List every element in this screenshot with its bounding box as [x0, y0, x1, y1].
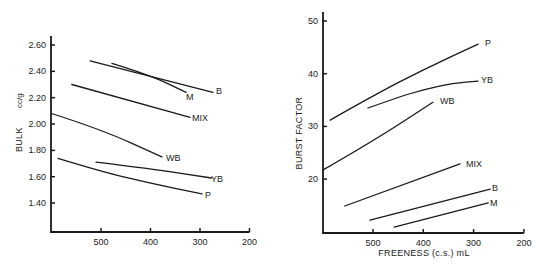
- series-line-b: [370, 189, 490, 220]
- series-line-m: [394, 203, 488, 227]
- series-line-m: [112, 63, 186, 92]
- x-tick-label: 200: [242, 237, 257, 247]
- series-label-mix: MIX: [466, 159, 482, 169]
- y-tick-label: 1.40: [28, 198, 46, 208]
- series-label-mix: MIX: [192, 113, 208, 123]
- y-tick-label: 50: [308, 16, 318, 26]
- x-tick-label: 200: [516, 238, 531, 248]
- burst-factor-vs-freeness-chart: 50040030020050403020PYBWBMIXBMBURST FACT…: [294, 12, 531, 258]
- y-tick-label: 2.40: [28, 66, 46, 76]
- left-y-axis-unit: cc/g: [15, 93, 24, 108]
- y-tick-label: 20: [308, 174, 318, 184]
- y-tick-label: 2.00: [28, 119, 46, 129]
- series-line-wb: [323, 102, 433, 170]
- left-y-axis-title: BULK: [14, 127, 24, 152]
- y-tick-label: 2.20: [28, 93, 46, 103]
- series-label-m: M: [490, 198, 498, 208]
- series-label-yb: YB: [481, 75, 493, 85]
- series-label-m: M: [186, 92, 194, 102]
- x-tick-label: 500: [365, 238, 380, 248]
- series-label-p: P: [485, 38, 491, 48]
- series-label-wb: WB: [166, 153, 181, 163]
- left-axes: [51, 36, 250, 232]
- series-label-p: P: [205, 190, 211, 200]
- x-tick-label: 400: [416, 238, 431, 248]
- series-line-yb: [96, 162, 211, 178]
- right-y-axis-title: BURST FACTOR: [294, 96, 304, 169]
- x-tick-label: 400: [143, 237, 158, 247]
- x-tick-label: 500: [93, 237, 108, 247]
- series-line-p: [58, 158, 202, 194]
- y-tick-label: 2.60: [28, 40, 46, 50]
- freeness-charts: 5004003002002.602.402.202.001.801.601.40…: [0, 0, 545, 268]
- series-label-yb: YB: [211, 174, 223, 184]
- series-line-mix: [345, 164, 460, 206]
- y-tick-label: 40: [308, 69, 318, 79]
- bulk-vs-freeness-chart: 5004003002002.602.402.202.001.801.601.40…: [14, 36, 257, 247]
- right-x-axis-title: FREENESS (c.s.) mL: [378, 248, 469, 258]
- series-label-wb: WB: [440, 96, 455, 106]
- y-tick-label: 30: [308, 121, 318, 131]
- series-label-b: B: [492, 183, 498, 193]
- series-line-p: [330, 44, 478, 120]
- x-tick-label: 300: [466, 238, 481, 248]
- series-line-yb: [368, 81, 478, 108]
- series-label-b: B: [216, 86, 222, 96]
- y-tick-label: 1.60: [28, 172, 46, 182]
- x-tick-label: 300: [192, 237, 207, 247]
- series-line-mix: [72, 85, 190, 118]
- y-tick-label: 1.80: [28, 145, 46, 155]
- series-line-wb: [52, 114, 162, 157]
